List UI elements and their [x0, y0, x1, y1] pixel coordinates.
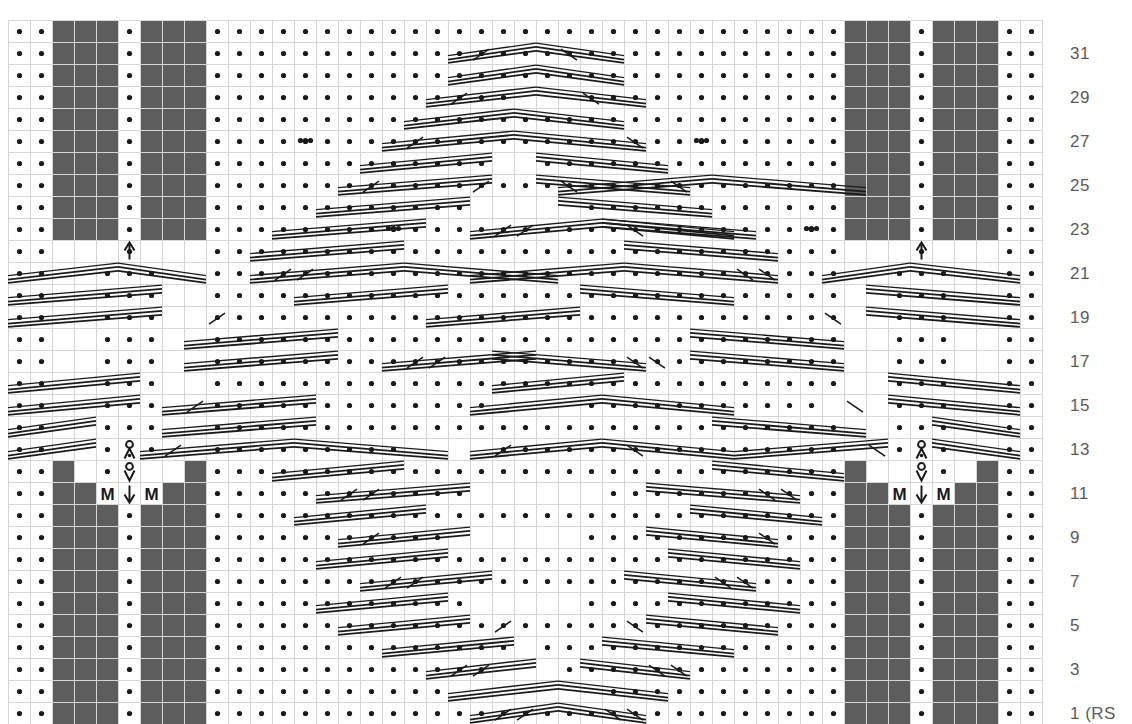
svg-text:M: M	[100, 485, 114, 504]
purl-dot-icon	[281, 689, 286, 694]
purl-dot-icon	[831, 491, 836, 496]
purl-dot-icon	[1029, 601, 1034, 606]
dark-cell	[141, 65, 163, 87]
purl-dot-icon	[523, 579, 528, 584]
purl-dot-icon	[127, 117, 132, 122]
purl-dot-icon	[1007, 601, 1012, 606]
knitting-chart-page: MMMM 1 (RS35791113151719212325272931	[0, 0, 1132, 724]
purl-dot-icon	[39, 535, 44, 540]
purl-dot-icon	[391, 117, 396, 122]
purl-dot-icon	[677, 425, 682, 430]
dark-cell	[845, 637, 867, 659]
purl-dot-icon	[39, 249, 44, 254]
purl-dot-icon	[39, 29, 44, 34]
purl-dot-icon	[611, 425, 616, 430]
purl-dot-icon	[809, 645, 814, 650]
purl-dot-icon	[237, 95, 242, 100]
purl-dot-icon	[259, 689, 264, 694]
purl-dot-icon	[369, 425, 374, 430]
purl-dot-icon	[281, 51, 286, 56]
purl-dot-icon	[17, 645, 22, 650]
purl-dot-icon	[39, 73, 44, 78]
dark-cell	[933, 527, 955, 549]
purl-dot-icon	[677, 73, 682, 78]
dark-cell	[867, 219, 889, 241]
purl-dot-icon	[1029, 491, 1034, 496]
dark-cell	[53, 527, 75, 549]
dark-cell	[141, 681, 163, 703]
dark-cell	[141, 593, 163, 615]
purl-dot-icon	[545, 29, 550, 34]
dark-cell	[53, 593, 75, 615]
purl-dot-icon	[105, 425, 110, 430]
dark-cell	[185, 659, 207, 681]
row-number-31: 31	[1070, 44, 1090, 64]
purl-dot-icon	[1029, 139, 1034, 144]
purl-dot-icon	[369, 689, 374, 694]
purl-dot-icon	[809, 249, 814, 254]
purl-dot-icon	[919, 139, 924, 144]
purl-dot-icon	[17, 601, 22, 606]
purl-dot-icon	[413, 249, 418, 254]
purl-dot-icon	[413, 403, 418, 408]
purl-dot-icon	[611, 249, 616, 254]
purl-dot-icon	[743, 139, 748, 144]
purl-dot-icon	[809, 29, 814, 34]
purl-dot-icon	[281, 315, 286, 320]
purl-dot-icon	[435, 337, 440, 342]
purl-dot-icon	[391, 425, 396, 430]
purl-dot-icon	[809, 667, 814, 672]
knitting-chart-svg[interactable]: MMMM	[8, 20, 1043, 724]
purl-dot-icon	[127, 227, 132, 232]
dark-cell	[53, 43, 75, 65]
dark-cell	[75, 593, 97, 615]
purl-dot-icon	[303, 711, 308, 716]
chart-grid-container[interactable]: MMMM	[8, 20, 1043, 724]
purl-dot-icon	[479, 381, 484, 386]
svg-text:M: M	[144, 485, 158, 504]
purl-dot-icon	[259, 579, 264, 584]
row-number-11: 11	[1070, 484, 1089, 504]
dark-cell	[75, 549, 97, 571]
purl-dot-icon	[809, 161, 814, 166]
purl-dot-icon	[391, 95, 396, 100]
dark-cell	[977, 153, 999, 175]
purl-dot-icon	[127, 557, 132, 562]
purl-dot-icon	[237, 249, 242, 254]
purl-dot-icon	[1029, 623, 1034, 628]
dark-cell	[955, 659, 977, 681]
purl-dot-icon	[1029, 381, 1034, 386]
purl-dot-icon	[809, 271, 814, 276]
purl-dot-icon	[259, 73, 264, 78]
purl-dot-icon	[1029, 425, 1034, 430]
purl-dot-icon	[611, 337, 616, 342]
dark-cell	[185, 109, 207, 131]
dark-cell	[933, 65, 955, 87]
dark-cell	[867, 527, 889, 549]
purl-dot-icon	[1029, 645, 1034, 650]
purl-dot-icon	[347, 689, 352, 694]
dark-cell	[75, 615, 97, 637]
dark-cell	[955, 483, 977, 505]
purl-dot-icon	[1029, 689, 1034, 694]
purl-dot-icon	[765, 205, 770, 210]
dark-cell	[163, 109, 185, 131]
purl-dot-icon	[787, 139, 792, 144]
purl-dot-icon	[721, 689, 726, 694]
purl-dot-icon	[677, 469, 682, 474]
purl-dot-icon	[39, 623, 44, 628]
purl-dot-icon	[17, 139, 22, 144]
purl-dot-icon	[237, 667, 242, 672]
purl-dot-icon	[919, 73, 924, 78]
dark-cell	[97, 615, 119, 637]
purl-dot-icon	[677, 711, 682, 716]
purl-dot-icon	[721, 315, 726, 320]
purl-dot-icon	[655, 117, 660, 122]
purl-dot-icon	[259, 95, 264, 100]
purl-dot-icon	[765, 403, 770, 408]
dark-cell	[141, 43, 163, 65]
dark-cell	[867, 593, 889, 615]
purl-dot-icon	[237, 535, 242, 540]
purl-dot-icon	[39, 513, 44, 518]
purl-dot-icon	[589, 337, 594, 342]
